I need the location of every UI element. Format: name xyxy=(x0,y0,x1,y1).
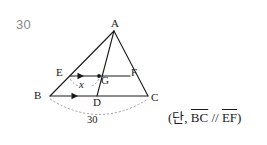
measure-label-bc: 30 xyxy=(87,115,98,126)
measure-label-x: x xyxy=(79,79,84,90)
condition-operator: // xyxy=(208,110,222,125)
point-label-e: E xyxy=(56,67,63,78)
segment-ac xyxy=(114,31,148,96)
condition-note: (단, BC // EF) xyxy=(168,111,241,126)
vertex-label-c: C xyxy=(151,92,158,103)
vertex-label-b: B xyxy=(34,90,41,101)
segment-ad xyxy=(97,31,114,96)
condition-term-ef: EF xyxy=(222,110,237,125)
point-label-g: G xyxy=(101,75,109,86)
point-label-f: F xyxy=(131,67,137,78)
parallel-mark-bc xyxy=(72,93,79,99)
problem-figure-panel: 30 A B C D E F G x 30 (단, BC // EF) xyxy=(0,0,267,145)
vertex-label-a: A xyxy=(111,18,119,29)
condition-term-bc: BC xyxy=(191,110,208,125)
condition-suffix: ) xyxy=(237,110,241,125)
leader-x-right xyxy=(90,79,99,86)
condition-prefix: (단, xyxy=(168,110,191,125)
point-label-d: D xyxy=(93,97,101,108)
